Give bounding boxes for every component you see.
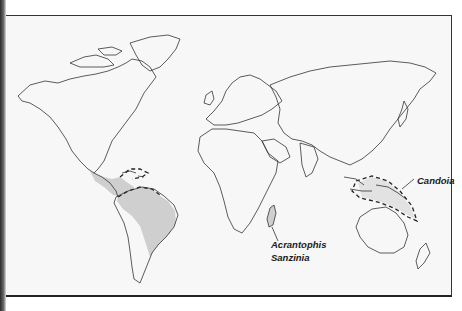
caribbean-islands — [122, 171, 144, 177]
world-map-frame: Candoia Acrantophis Sanzinia — [6, 15, 452, 297]
label-acrantophis: Acrantophis — [271, 239, 326, 250]
label-candoia: Candoia — [417, 175, 454, 186]
north-america — [18, 59, 156, 173]
asia — [270, 61, 436, 165]
japan — [398, 101, 408, 127]
world-map — [6, 16, 452, 298]
india — [300, 143, 318, 177]
range-caribbean-outline — [120, 169, 148, 179]
candoia-leader-line — [402, 179, 414, 189]
british-isles — [204, 91, 214, 105]
australia — [356, 207, 408, 253]
europe — [206, 75, 282, 125]
range-neotropics — [90, 171, 176, 257]
label-sanzinia: Sanzinia — [271, 252, 310, 263]
greenland — [130, 35, 180, 71]
africa — [198, 129, 278, 233]
new-zealand — [416, 243, 430, 269]
arctic-islands — [70, 47, 122, 67]
